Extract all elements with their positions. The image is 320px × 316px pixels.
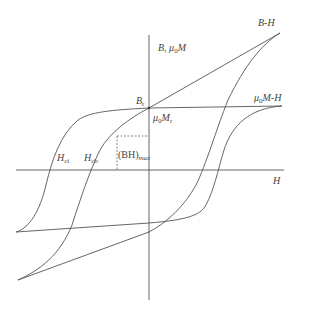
mu0mr-label: μ0Mr — [153, 113, 172, 125]
br-label: Br — [136, 96, 144, 108]
x-axis-label: H — [273, 176, 280, 186]
bhmax-label: (BH)max — [118, 150, 150, 162]
hci-label: Hci — [57, 153, 69, 165]
hcb-label: Hcb — [84, 153, 98, 165]
bh-curve-label: B-H — [258, 18, 275, 28]
mh-curve-label: μ0M-H — [254, 93, 281, 105]
y-axis-label: B, μ0M — [158, 43, 186, 55]
br-point — [148, 107, 150, 109]
